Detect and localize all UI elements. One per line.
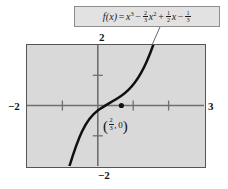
callout-leader-line — [152, 27, 160, 45]
x-axis-label-left: −2 — [8, 100, 20, 112]
y-axis-label-top: 2 — [99, 31, 105, 43]
function-graph-figure: f(x)=x3−23x2+12x−13 2 −2 −2 3 (23, 0) — [0, 0, 228, 189]
plot-frame — [26, 44, 206, 168]
formula-text: f(x)=x3−23x2+12x−13 — [103, 10, 191, 24]
close-paren: ) — [123, 118, 128, 134]
fraction-two-thirds: 23 — [143, 10, 148, 24]
root-point-marker — [119, 103, 124, 108]
x-axis-label-right: 3 — [208, 100, 214, 112]
root-point-label: (23, 0) — [103, 117, 128, 131]
y-axis-label-bottom: −2 — [98, 169, 110, 181]
fraction-one-half: 12 — [166, 10, 171, 24]
plot-svg — [27, 45, 204, 166]
formula-callout-box: f(x)=x3−23x2+12x−13 — [74, 6, 220, 27]
open-paren: ( — [103, 118, 108, 134]
fraction-two-thirds-point: 23 — [109, 117, 114, 131]
fraction-one-third: 13 — [185, 10, 190, 24]
